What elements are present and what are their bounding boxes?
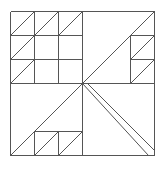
diagonal-line	[88, 84, 155, 151]
diagonal-line	[59, 132, 83, 156]
diagonal-line	[131, 60, 155, 84]
diagonal-line	[83, 84, 149, 156]
diagonal-line	[35, 132, 59, 156]
diagonal-line	[11, 36, 35, 60]
diagonal-line	[11, 60, 35, 84]
quilt-block-diagram	[0, 0, 159, 173]
diagram-lines	[11, 12, 155, 156]
diagonal-line	[11, 84, 83, 156]
diagonal-line	[83, 12, 155, 84]
diagonal-line	[131, 36, 155, 60]
diagonal-line	[11, 12, 35, 36]
diagonal-line	[59, 12, 83, 36]
diagonal-line	[35, 12, 59, 36]
